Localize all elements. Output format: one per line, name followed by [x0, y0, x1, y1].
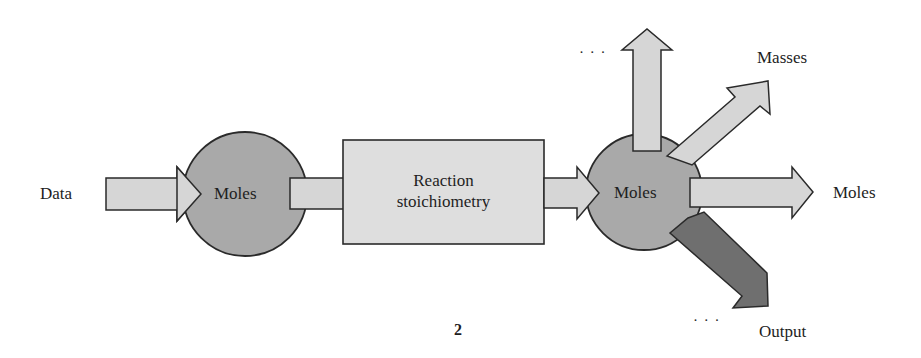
process-box-line-2: stoichiometry	[343, 192, 544, 212]
masses-arrow	[667, 81, 770, 165]
moles-output-label: Moles	[833, 183, 876, 203]
masses-label: Masses	[757, 48, 807, 68]
output-label: Output	[759, 322, 806, 342]
moles-node-2-label: Moles	[614, 183, 657, 203]
page-number: 2	[454, 320, 462, 340]
process-box-line-1: Reaction	[343, 171, 544, 191]
moles-output-arrow	[690, 167, 813, 218]
output-arrow	[670, 212, 768, 308]
connector-bar	[290, 178, 345, 209]
down-ellipsis: · · ·	[693, 310, 721, 330]
moles-node-1-label: Moles	[214, 184, 257, 204]
up-ellipsis: · · ·	[579, 42, 607, 62]
data-label: Data	[40, 184, 72, 204]
up-arrow	[622, 29, 672, 151]
